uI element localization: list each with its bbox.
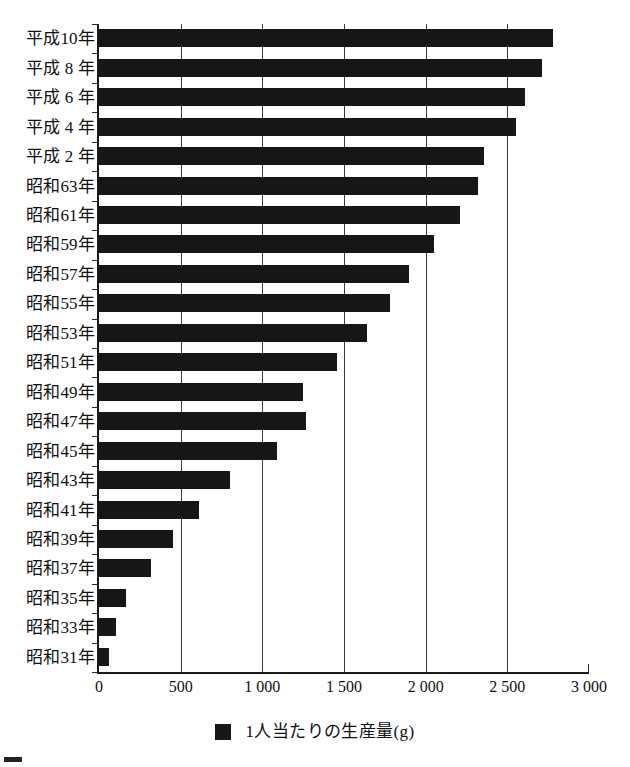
x-axis-tick-label: 2 000 <box>408 678 444 696</box>
y-axis-label: 昭和61年 <box>3 207 95 225</box>
y-axis-tick <box>92 495 98 496</box>
bar <box>99 88 525 106</box>
y-axis-label: 昭和41年 <box>3 502 95 520</box>
bar <box>99 589 126 607</box>
bar <box>99 29 553 47</box>
bar <box>99 648 109 666</box>
x-axis-tick-label: 1 000 <box>244 678 280 696</box>
y-axis-label: 昭和59年 <box>3 236 95 254</box>
x-axis-tick-label: 1 500 <box>326 678 362 696</box>
chart-legend: 1人当たりの生産量(g) <box>0 722 630 742</box>
y-axis-label: 昭和45年 <box>3 443 95 461</box>
bar <box>99 324 367 342</box>
y-axis-label: 平成 4 年 <box>3 119 95 137</box>
bar <box>99 59 542 77</box>
y-axis-tick <box>92 53 98 54</box>
y-axis-label: 昭和31年 <box>3 649 95 667</box>
bar <box>99 442 277 460</box>
x-axis-tick-label: 2 500 <box>489 678 525 696</box>
y-axis-label: 昭和39年 <box>3 531 95 549</box>
y-axis-label: 昭和35年 <box>3 590 95 608</box>
bar <box>99 530 173 548</box>
bar <box>99 501 199 519</box>
bar <box>99 235 434 253</box>
y-axis-tick <box>92 554 98 555</box>
y-axis-tick <box>92 171 98 172</box>
x-axis-tick-label: 0 <box>95 678 103 696</box>
bar <box>99 383 303 401</box>
y-axis-label: 昭和37年 <box>3 560 95 578</box>
x-axis-line <box>97 672 589 674</box>
bar <box>99 118 516 136</box>
y-axis-tick <box>92 377 98 378</box>
x-axis-tick-label: 3 000 <box>571 678 607 696</box>
y-axis-label: 平成 8 年 <box>3 60 95 78</box>
bar-chart: 平成10年平成 8 年平成 6 年平成 4 年平成 2 年昭和63年昭和61年昭… <box>0 0 630 700</box>
y-axis-tick <box>92 407 98 408</box>
y-axis-label: 昭和55年 <box>3 295 95 313</box>
y-axis-tick <box>92 466 98 467</box>
bar <box>99 471 230 489</box>
y-axis-label: 昭和47年 <box>3 413 95 431</box>
bar <box>99 206 460 224</box>
y-axis-label: 昭和57年 <box>3 266 95 284</box>
y-axis-tick <box>92 83 98 84</box>
y-axis-tick <box>92 24 98 25</box>
y-axis-tick <box>92 613 98 614</box>
x-axis-end-tick <box>588 664 589 673</box>
x-axis-tick-label: 500 <box>169 678 193 696</box>
bar <box>99 147 484 165</box>
chart-page: 平成10年平成 8 年平成 6 年平成 4 年平成 2 年昭和63年昭和61年昭… <box>0 0 630 767</box>
y-axis-tick <box>92 525 98 526</box>
legend-label: 1人当たりの生産量(g) <box>245 722 414 742</box>
y-axis-tick <box>92 672 98 673</box>
y-axis-tick <box>92 289 98 290</box>
y-axis-label: 昭和43年 <box>3 472 95 490</box>
filled-square-marker-icon <box>215 724 231 740</box>
bar <box>99 412 306 430</box>
bar <box>99 618 116 636</box>
y-axis-tick <box>92 201 98 202</box>
y-axis-label: 昭和63年 <box>3 178 95 196</box>
plot-area <box>99 24 589 672</box>
y-axis-tick <box>92 584 98 585</box>
y-axis-label: 昭和53年 <box>3 325 95 343</box>
bar <box>99 177 478 195</box>
bar <box>99 353 337 371</box>
y-axis-tick <box>92 230 98 231</box>
y-axis-tick <box>92 348 98 349</box>
y-axis-tick <box>92 260 98 261</box>
bar <box>99 294 390 312</box>
y-axis-label: 昭和33年 <box>3 619 95 637</box>
y-axis-label: 平成10年 <box>3 30 95 48</box>
y-axis-tick <box>92 142 98 143</box>
bar <box>99 559 151 577</box>
y-axis-label: 平成 2 年 <box>3 148 95 166</box>
page-corner-mark <box>4 757 22 762</box>
y-axis-label: 昭和49年 <box>3 384 95 402</box>
y-axis-tick <box>92 643 98 644</box>
y-axis-label: 平成 6 年 <box>3 89 95 107</box>
y-axis-category-labels: 平成10年平成 8 年平成 6 年平成 4 年平成 2 年昭和63年昭和61年昭… <box>0 0 95 700</box>
y-axis-tick <box>92 319 98 320</box>
y-axis-label: 昭和51年 <box>3 354 95 372</box>
y-axis-tick <box>92 436 98 437</box>
y-axis-tick <box>92 112 98 113</box>
bar <box>99 265 409 283</box>
